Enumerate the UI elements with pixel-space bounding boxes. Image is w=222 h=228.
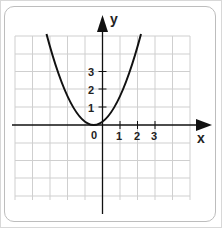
y-axis-label: y xyxy=(110,11,118,27)
coordinate-plane: y x 0 1 2 3 1 2 3 xyxy=(0,0,222,228)
y-axis xyxy=(97,15,108,214)
y-tick-label-1: 1 xyxy=(88,102,94,114)
origin-label: 0 xyxy=(91,129,97,141)
y-tick-label-3: 3 xyxy=(88,66,94,78)
x-tick-label-1: 1 xyxy=(116,130,122,142)
y-tick-label-2: 2 xyxy=(88,84,94,96)
x-axis-label: x xyxy=(197,130,205,146)
y-axis-arrow-icon xyxy=(97,15,108,32)
x-tick-label-2: 2 xyxy=(134,130,140,142)
x-tick-label-3: 3 xyxy=(151,130,157,142)
x-axis xyxy=(12,119,212,131)
